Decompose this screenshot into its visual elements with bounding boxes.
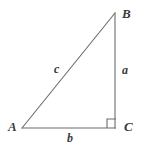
hypotenuse-line-c (22, 13, 115, 128)
vertex-label-a: A (8, 120, 17, 133)
right-triangle-figure: A B C c a b (0, 0, 152, 156)
vertex-label-c: C (124, 120, 133, 133)
side-label-b: b (67, 132, 73, 144)
vertex-label-b: B (122, 7, 131, 20)
side-label-c: c (54, 63, 59, 75)
side-label-a: a (122, 64, 128, 76)
